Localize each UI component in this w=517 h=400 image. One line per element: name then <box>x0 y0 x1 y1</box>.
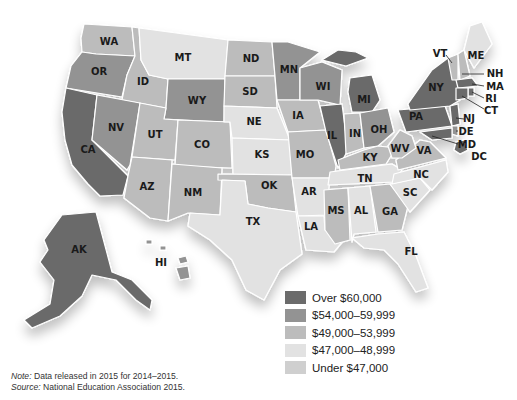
label-MA: MA <box>486 81 504 92</box>
label-VA: VA <box>417 145 432 156</box>
source-line: Source: National Education Association 2… <box>11 382 185 393</box>
source-label: Source: <box>11 382 41 392</box>
label-WV: WV <box>391 143 410 154</box>
label-HI: HI <box>155 257 167 268</box>
state-NJ <box>450 104 460 126</box>
label-DC: DC <box>471 151 487 162</box>
state-ME <box>464 22 492 68</box>
state-FL <box>352 232 428 292</box>
state-MA <box>456 78 478 88</box>
label-KY: KY <box>363 152 379 163</box>
state-HI <box>178 256 188 264</box>
label-UT: UT <box>148 129 163 140</box>
label-OH: OH <box>371 124 388 135</box>
label-LA: LA <box>304 221 318 232</box>
label-OR: OR <box>91 66 108 77</box>
label-WA: WA <box>100 36 119 47</box>
label-GA: GA <box>382 206 398 217</box>
legend-label: Over $60,000 <box>312 292 382 304</box>
label-IN: IN <box>349 128 361 139</box>
legend-label: $49,000–53,999 <box>312 327 395 339</box>
footnote: Note: Data released in 2015 for 2014–201… <box>11 371 185 393</box>
label-IA: IA <box>292 110 304 121</box>
label-AZ: AZ <box>140 181 155 192</box>
legend-swatch <box>285 344 306 357</box>
label-NE: NE <box>246 116 261 127</box>
label-NV: NV <box>108 122 124 133</box>
state-HI-small <box>146 240 152 244</box>
state-RI <box>468 88 474 96</box>
label-FL: FL <box>404 246 418 257</box>
state-AK <box>24 212 152 328</box>
label-OK: OK <box>261 180 279 191</box>
label-MD: MD <box>458 139 476 150</box>
label-AK: AK <box>71 244 88 255</box>
state-HI-small2 <box>160 246 166 250</box>
label-MS: MS <box>327 205 344 216</box>
note-label: Note: <box>11 371 32 381</box>
legend-item-under-47000: Under $47,000 <box>285 359 395 377</box>
label-NH: NH <box>487 68 504 79</box>
legend-item-over-60000: Over $60,000 <box>285 289 395 307</box>
label-DE: DE <box>458 126 473 137</box>
note-line: Note: Data released in 2015 for 2014–201… <box>11 371 185 382</box>
label-ID: ID <box>137 76 149 87</box>
note-text: Data released in 2015 for 2014–2015. <box>32 371 179 381</box>
label-SC: SC <box>403 187 418 198</box>
label-MN: MN <box>280 64 298 75</box>
label-PA: PA <box>409 111 423 122</box>
label-TN: TN <box>357 173 372 184</box>
label-VT: VT <box>433 48 448 59</box>
label-MI: MI <box>357 94 371 105</box>
label-IL: IL <box>327 130 338 141</box>
label-CO: CO <box>194 139 210 150</box>
label-ME: ME <box>468 50 485 61</box>
label-TX: TX <box>246 216 261 227</box>
legend-item-47000-48999: $47,000–48,999 <box>285 342 395 360</box>
legend-item-54000-59999: $54,000–59,999 <box>285 307 395 325</box>
label-AR: AR <box>301 186 317 197</box>
map-legend: Over $60,000 $54,000–59,999 $49,000–53,9… <box>285 289 395 377</box>
label-AL: AL <box>354 205 369 216</box>
label-NJ: NJ <box>463 113 475 124</box>
legend-label: $47,000–48,999 <box>312 344 395 356</box>
label-WY: WY <box>188 95 207 106</box>
label-NM: NM <box>184 187 202 198</box>
label-RI: RI <box>485 93 496 104</box>
state-PA <box>398 106 452 132</box>
state-HI-big <box>176 266 190 280</box>
label-CT: CT <box>484 105 498 116</box>
legend-swatch <box>285 291 306 304</box>
label-MT: MT <box>175 52 192 63</box>
leader-ct <box>462 96 484 109</box>
us-choropleth-map: WA OR CA ID NV MT WY UT AZ CO NM ND SD N… <box>0 0 517 400</box>
legend-label: Under $47,000 <box>312 362 388 374</box>
state-MI-upper <box>322 50 368 66</box>
legend-swatch <box>285 326 306 339</box>
legend-swatch <box>285 361 306 374</box>
label-ND: ND <box>243 53 260 64</box>
label-NC: NC <box>413 169 429 180</box>
legend-swatch <box>285 309 306 322</box>
label-NY: NY <box>428 82 444 93</box>
label-KS: KS <box>255 149 270 160</box>
legend-label: $54,000–59,999 <box>312 309 395 321</box>
label-MO: MO <box>296 149 314 160</box>
label-WI: WI <box>316 81 331 92</box>
label-SD: SD <box>242 86 258 97</box>
label-CA: CA <box>80 144 95 155</box>
source-text: National Education Association 2015. <box>41 382 185 392</box>
legend-item-49000-53999: $49,000–53,999 <box>285 324 395 342</box>
